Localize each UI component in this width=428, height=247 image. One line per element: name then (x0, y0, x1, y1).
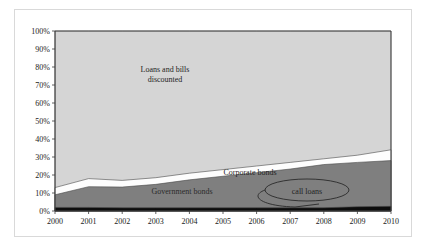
x-axis-tick-label: 2007 (282, 217, 298, 226)
x-axis-tick-label: 2010 (383, 217, 399, 226)
figure-container: 0%10%20%30%40%50%60%70%80%90%100%2000200… (0, 0, 428, 247)
call-loans-label: call loans (292, 187, 322, 196)
y-axis-tick-label: 90% (35, 45, 50, 54)
y-axis-tick-label: 70% (35, 81, 50, 90)
x-axis-tick-label: 2001 (81, 217, 97, 226)
corporate-bonds-label: Corporate bonds (223, 168, 276, 177)
x-axis-tick-label: 2009 (349, 217, 365, 226)
x-axis-tick-label: 2000 (47, 217, 63, 226)
y-axis-tick-label: 30% (35, 153, 50, 162)
x-axis-tick-label: 2003 (148, 217, 164, 226)
x-axis-tick-label: 2005 (215, 217, 231, 226)
government-bonds-label: Government bonds (151, 187, 212, 196)
y-axis-tick-label: 0% (39, 207, 50, 216)
x-axis-tick-label: 2002 (114, 217, 130, 226)
x-axis-tick-label: 2008 (316, 217, 332, 226)
x-axis-tick-label: 2004 (181, 217, 197, 226)
y-axis-tick-label: 20% (35, 171, 50, 180)
y-axis-tick-label: 10% (35, 189, 50, 198)
loans-and-bills-label: Loans and billsdiscounted (141, 65, 190, 84)
x-axis-tick-label: 2006 (249, 217, 265, 226)
y-axis-tick-label: 50% (35, 117, 50, 126)
y-axis-tick-label: 40% (35, 135, 50, 144)
y-axis-tick-label: 100% (31, 27, 50, 36)
y-axis-tick-label: 60% (35, 99, 50, 108)
y-axis-tick-label: 80% (35, 63, 50, 72)
stacked-area-chart: 0%10%20%30%40%50%60%70%80%90%100%2000200… (0, 0, 428, 247)
